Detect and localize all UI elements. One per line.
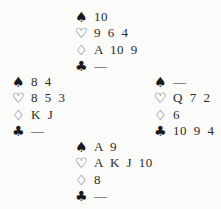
south-clubs-row: ♣ —	[75, 188, 153, 204]
north-clubs-row: ♣ —	[75, 58, 138, 74]
club-icon: ♣	[12, 124, 31, 138]
east-diamonds-row: ♢ 6	[154, 107, 215, 123]
north-spades-cards: 10	[94, 9, 108, 25]
club-icon: ♣	[154, 124, 173, 138]
south-hearts-row: ♡ A K J 10	[75, 155, 153, 171]
club-icon: ♣	[75, 189, 94, 203]
club-icon: ♣	[75, 59, 94, 73]
north-diamonds-row: ♢ A 10 9	[75, 42, 138, 58]
diamond-icon: ♢	[12, 108, 31, 122]
north-diamonds-cards: A 10 9	[94, 42, 138, 58]
west-spades-cards: 8 4	[31, 74, 52, 90]
north-clubs-cards: —	[94, 58, 108, 74]
heart-icon: ♡	[154, 91, 173, 105]
east-clubs-cards: 10 9 4	[173, 123, 215, 139]
east-hearts-cards: Q 7 2	[173, 90, 210, 106]
spade-icon: ♠	[12, 75, 31, 89]
east-hearts-row: ♡ Q 7 2	[154, 90, 215, 106]
west-hearts-row: ♡ 8 5 3	[12, 90, 66, 106]
east-spades-cards: —	[173, 74, 187, 90]
west-hearts-cards: 8 5 3	[31, 90, 66, 106]
spade-icon: ♠	[154, 75, 173, 89]
west-hand: ♠ 8 4 ♡ 8 5 3 ♢ K J ♣ —	[12, 74, 66, 139]
diamond-icon: ♢	[75, 173, 94, 187]
north-hand: ♠ 10 ♡ 9 6 4 ♢ A 10 9 ♣ —	[75, 9, 138, 74]
west-clubs-cards: —	[31, 123, 45, 139]
west-diamonds-cards: K J	[31, 107, 53, 123]
spade-icon: ♠	[75, 140, 94, 154]
south-hand: ♠ A 9 ♡ A K J 10 ♢ 8 ♣ —	[75, 139, 153, 204]
north-hearts-cards: 9 6 4	[94, 25, 129, 41]
east-clubs-row: ♣ 10 9 4	[154, 123, 215, 139]
south-spades-cards: A 9	[94, 139, 117, 155]
south-spades-row: ♠ A 9	[75, 139, 153, 155]
south-diamonds-row: ♢ 8	[75, 172, 153, 188]
west-diamonds-row: ♢ K J	[12, 107, 66, 123]
north-spades-row: ♠ 10	[75, 9, 138, 25]
heart-icon: ♡	[75, 26, 94, 40]
south-diamonds-cards: 8	[94, 172, 101, 188]
north-hearts-row: ♡ 9 6 4	[75, 25, 138, 41]
south-clubs-cards: —	[94, 188, 108, 204]
heart-icon: ♡	[12, 91, 31, 105]
east-diamonds-cards: 6	[173, 107, 180, 123]
south-hearts-cards: A K J 10	[94, 155, 153, 171]
west-clubs-row: ♣ —	[12, 123, 66, 139]
diamond-icon: ♢	[154, 108, 173, 122]
east-spades-row: ♠ —	[154, 74, 215, 90]
heart-icon: ♡	[75, 156, 94, 170]
diamond-icon: ♢	[75, 43, 94, 57]
west-spades-row: ♠ 8 4	[12, 74, 66, 90]
spade-icon: ♠	[75, 10, 94, 24]
east-hand: ♠ — ♡ Q 7 2 ♢ 6 ♣ 10 9 4	[154, 74, 215, 139]
